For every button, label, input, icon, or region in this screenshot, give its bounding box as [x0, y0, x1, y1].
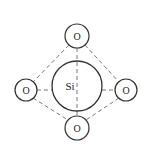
o-atom-top-label: O [73, 31, 80, 42]
o-atom-left-label: O [22, 85, 29, 96]
o-atom-right-label: O [122, 85, 129, 96]
edge-left-bottom [33, 98, 68, 120]
si-atom-label: Si [65, 80, 74, 92]
edge-top-right [85, 45, 119, 82]
sio4-tetrahedron-diagram: Si O O O O [0, 0, 147, 154]
o-atom-bottom-label: O [73, 123, 80, 134]
diagram-canvas: Si O O O O [0, 0, 147, 154]
edge-top-left [33, 45, 69, 82]
edge-right-bottom [86, 98, 119, 120]
dashed-bonds [33, 45, 119, 120]
